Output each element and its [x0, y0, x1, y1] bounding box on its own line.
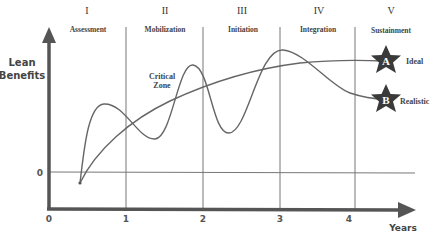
numeral-2: II [162, 5, 169, 16]
star-a-marker: A [371, 45, 401, 73]
x-tick-4: 4 [346, 214, 352, 224]
phase-names: Assessment Mobilization Initiation Integ… [70, 25, 412, 35]
phase-dividers [126, 27, 355, 209]
x-axis-label: Years [388, 223, 417, 233]
y-tick-zero: 0 [37, 168, 43, 178]
x-axis [47, 202, 416, 218]
star-b-marker: B [371, 84, 401, 112]
phase-numerals: I II III IV V [85, 5, 395, 16]
phase-mobilization: Mobilization [145, 25, 187, 34]
lean-benefits-diagram: I II III IV V Assessment Mobilization In… [0, 0, 431, 233]
star-a-label: A [382, 55, 390, 67]
y-axis-label-line1: Lean [8, 57, 35, 68]
phase-assessment: Assessment [70, 25, 107, 34]
ideal-label: Ideal [406, 57, 424, 66]
phase-sustainment: Sustainment [371, 26, 412, 35]
x-tick-1: 1 [123, 214, 129, 224]
critical-zone-label-line2: Zone [153, 81, 171, 90]
start-point [78, 181, 81, 184]
x-tick-3: 3 [277, 214, 283, 224]
y-axis [42, 27, 56, 210]
x-axis-arrow-icon [398, 202, 416, 218]
critical-zone-label-line1: Critical [149, 72, 176, 81]
phase-initiation: Initiation [228, 25, 259, 34]
x-tick-2: 2 [200, 214, 206, 224]
y-axis-label-line2: Benefits [0, 70, 45, 81]
numeral-1: I [85, 5, 88, 16]
zero-line [49, 172, 415, 173]
numeral-3: III [237, 5, 247, 16]
realistic-label: Realistic [400, 97, 430, 106]
phase-integration: Integration [300, 25, 337, 34]
x-tick-0: 0 [46, 214, 52, 224]
y-axis-arrow-icon [42, 27, 56, 43]
star-b-label: B [382, 94, 390, 106]
numeral-4: IV [314, 5, 325, 16]
numeral-5: V [387, 5, 395, 16]
diagram-canvas: I II III IV V Assessment Mobilization In… [0, 0, 431, 233]
x-ticks: 0 1 2 3 4 [46, 214, 352, 224]
